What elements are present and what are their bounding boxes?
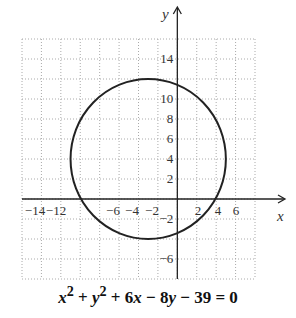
x-tick-label: 4 — [215, 203, 222, 218]
x-tick-label: −6 — [106, 203, 120, 218]
x-tick-label: 2 — [195, 203, 202, 218]
y-tick-label: 8 — [167, 111, 174, 126]
eq-x: x — [58, 288, 67, 307]
circle-graph: xy−14−12−6−4−224614108642−2−6 — [0, 0, 296, 280]
x-tick-label: −2 — [145, 203, 159, 218]
eq-constant: − 39 = 0 — [176, 288, 238, 307]
y-tick-label: 14 — [160, 51, 174, 66]
eq-term-8: − 8 — [142, 288, 169, 307]
y-tick-label: −6 — [159, 251, 173, 266]
eq-exp-2: 2 — [99, 283, 106, 299]
x-axis-label: x — [276, 208, 284, 224]
y-axis-label: y — [160, 6, 169, 22]
x-tick-label: 6 — [233, 203, 240, 218]
eq-exp-1: 2 — [67, 283, 74, 299]
eq-x-2: x — [133, 288, 142, 307]
eq-plus: + — [74, 288, 92, 307]
equation-caption: x2 + y2 + 6x − 8y − 39 = 0 — [0, 283, 296, 308]
x-tick-label: −14 — [25, 203, 46, 218]
y-tick-label: 10 — [160, 91, 173, 106]
y-tick-label: 4 — [167, 151, 174, 166]
x-tick-label: −4 — [125, 203, 139, 218]
x-tick-label: −12 — [46, 203, 66, 218]
y-tick-label: 2 — [167, 171, 174, 186]
eq-term-6: + 6 — [107, 288, 134, 307]
y-tick-label: −2 — [159, 211, 173, 226]
y-tick-label: 6 — [167, 131, 174, 146]
eq-y-2: y — [168, 288, 176, 307]
